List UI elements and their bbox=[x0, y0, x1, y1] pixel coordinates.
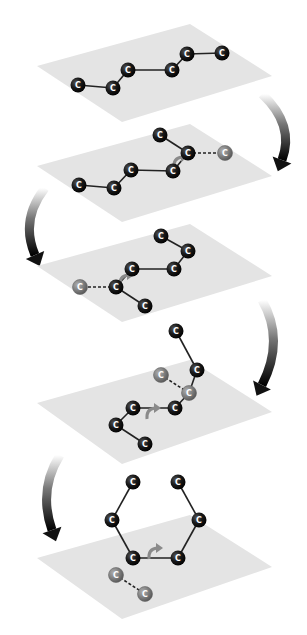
carbon-atom: C bbox=[72, 178, 87, 193]
svg-text:C: C bbox=[142, 302, 148, 311]
cyclization-diagram: CCCCCCCCCCCCCCCCCCCCCCCCCCCCCCCCCCCC bbox=[0, 0, 307, 635]
svg-text:C: C bbox=[113, 571, 119, 580]
svg-text:C: C bbox=[170, 167, 176, 176]
ghost-carbon-atom: C bbox=[182, 386, 197, 401]
carbon-atom: C bbox=[126, 551, 141, 566]
svg-text:C: C bbox=[171, 265, 177, 274]
carbon-atom: C bbox=[71, 78, 86, 93]
svg-text:C: C bbox=[196, 516, 202, 525]
carbon-atom: C bbox=[166, 164, 181, 179]
svg-text:C: C bbox=[142, 440, 148, 449]
svg-text:C: C bbox=[113, 421, 119, 430]
svg-text:C: C bbox=[222, 149, 228, 158]
svg-text:C: C bbox=[185, 149, 191, 158]
ghost-carbon-atom: C bbox=[154, 368, 169, 383]
svg-text:C: C bbox=[130, 554, 136, 563]
svg-text:C: C bbox=[219, 49, 225, 58]
carbon-atom: C bbox=[171, 475, 186, 490]
svg-text:C: C bbox=[185, 247, 191, 256]
svg-text:C: C bbox=[158, 371, 164, 380]
carbon-atom: C bbox=[181, 244, 196, 259]
carbon-atom: C bbox=[168, 401, 183, 416]
carbon-atom: C bbox=[181, 146, 196, 161]
svg-text:C: C bbox=[125, 66, 131, 75]
curved-down-arrow-icon bbox=[26, 188, 45, 266]
svg-text:C: C bbox=[186, 389, 192, 398]
panel-step-4: CCCCCCCC bbox=[37, 324, 272, 465]
diagram-canvas: CCCCCCCCCCCCCCCCCCCCCCCCCCCCCCCCCCCC bbox=[0, 0, 307, 635]
carbon-atom: C bbox=[126, 401, 141, 416]
svg-text:C: C bbox=[130, 478, 136, 487]
svg-text:C: C bbox=[113, 283, 119, 292]
step-panels: CCCCCCCCCCCCCCCCCCCCCCCCCCCCCCCCCCCC bbox=[37, 24, 272, 619]
carbon-atom: C bbox=[167, 262, 182, 277]
svg-text:C: C bbox=[110, 84, 116, 93]
ghost-carbon-atom: C bbox=[138, 587, 153, 602]
svg-text:C: C bbox=[111, 184, 117, 193]
svg-text:C: C bbox=[142, 590, 148, 599]
ghost-carbon-atom: C bbox=[109, 568, 124, 583]
molecular-plane bbox=[37, 24, 272, 122]
carbon-atom: C bbox=[192, 513, 207, 528]
svg-text:C: C bbox=[76, 181, 82, 190]
carbon-atom: C bbox=[180, 47, 195, 62]
carbon-atom: C bbox=[125, 262, 140, 277]
carbon-atom: C bbox=[154, 229, 169, 244]
svg-text:C: C bbox=[184, 50, 190, 59]
svg-text:C: C bbox=[175, 554, 181, 563]
carbon-atom: C bbox=[105, 513, 120, 528]
curved-down-arrow-icon bbox=[43, 455, 62, 541]
carbon-atom: C bbox=[109, 418, 124, 433]
svg-text:C: C bbox=[75, 81, 81, 90]
svg-text:C: C bbox=[157, 131, 163, 140]
panel-step-5: CCCCCCCC bbox=[37, 475, 272, 620]
svg-text:C: C bbox=[194, 366, 200, 375]
carbon-atom: C bbox=[121, 63, 136, 78]
panel-step-2: CCCCCCC bbox=[37, 124, 272, 222]
carbon-atom: C bbox=[107, 181, 122, 196]
carbon-atom: C bbox=[165, 63, 180, 78]
svg-text:C: C bbox=[158, 232, 164, 241]
svg-text:C: C bbox=[173, 327, 179, 336]
carbon-atom: C bbox=[169, 324, 184, 339]
svg-text:C: C bbox=[130, 404, 136, 413]
carbon-atom: C bbox=[138, 299, 153, 314]
molecular-plane bbox=[37, 515, 272, 619]
carbon-atom: C bbox=[109, 280, 124, 295]
panel-step-3: CCCCCCC bbox=[37, 224, 272, 322]
carbon-atom: C bbox=[215, 46, 230, 61]
svg-text:C: C bbox=[77, 283, 83, 292]
ghost-carbon-atom: C bbox=[73, 280, 88, 295]
carbon-atom: C bbox=[153, 128, 168, 143]
carbon-atom: C bbox=[106, 81, 121, 96]
ghost-carbon-atom: C bbox=[218, 146, 233, 161]
svg-text:C: C bbox=[169, 66, 175, 75]
svg-text:C: C bbox=[172, 404, 178, 413]
carbon-atom: C bbox=[171, 551, 186, 566]
curved-down-arrow-icon bbox=[262, 94, 291, 171]
carbon-atom: C bbox=[126, 475, 141, 490]
carbon-atom: C bbox=[124, 163, 139, 178]
panel-step-1: CCCCCC bbox=[37, 24, 272, 122]
svg-text:C: C bbox=[109, 516, 115, 525]
carbon-atom: C bbox=[190, 363, 205, 378]
curved-down-arrow-icon bbox=[253, 300, 273, 396]
svg-text:C: C bbox=[175, 478, 181, 487]
carbon-atom: C bbox=[138, 437, 153, 452]
svg-text:C: C bbox=[128, 166, 134, 175]
svg-text:C: C bbox=[129, 265, 135, 274]
